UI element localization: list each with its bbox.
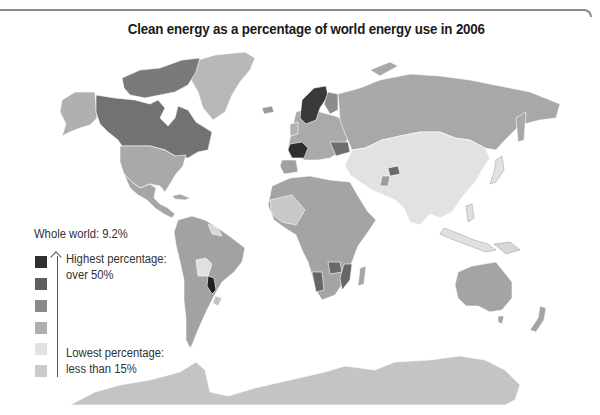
- madagascar: [358, 266, 366, 286]
- legend-lowest-line1: Lowest percentage:: [66, 346, 164, 361]
- legend-highest-line2: over 50%: [66, 268, 114, 283]
- australia: [455, 262, 512, 312]
- new-zealand: [530, 306, 546, 332]
- legend-arrow-line: [57, 256, 58, 377]
- legend-swatch-6: [35, 365, 47, 377]
- legend-highest-line1: Highest percentage:: [66, 252, 167, 267]
- central-asia-dark: [388, 166, 400, 176]
- legend-swatch-5: [35, 343, 47, 355]
- japan: [490, 156, 504, 184]
- iberia: [280, 160, 298, 174]
- central-asia-mid: [380, 176, 390, 186]
- iceland: [262, 106, 274, 114]
- legend-swatch-3: [35, 300, 47, 312]
- legend-swatch-2: [35, 278, 47, 290]
- philippines: [466, 204, 474, 222]
- whole-world-stat: Whole world: 9.2%: [34, 227, 128, 241]
- arrow-up-icon: [50, 251, 61, 262]
- legend-lowest-line2: less than 15%: [66, 362, 137, 377]
- zambia: [328, 262, 342, 274]
- uk: [290, 122, 298, 136]
- namibia: [312, 272, 324, 292]
- novaya-zemlya: [370, 62, 398, 76]
- new-guinea: [494, 242, 520, 254]
- tasmania: [498, 316, 504, 324]
- southeast-asia-islands: [440, 228, 496, 252]
- legend: Whole world: 9.2% Highest percentage: ov…: [0, 0, 200, 415]
- legend-swatch-1: [35, 256, 47, 268]
- uruguay: [213, 296, 222, 306]
- legend-swatch-4: [35, 322, 47, 334]
